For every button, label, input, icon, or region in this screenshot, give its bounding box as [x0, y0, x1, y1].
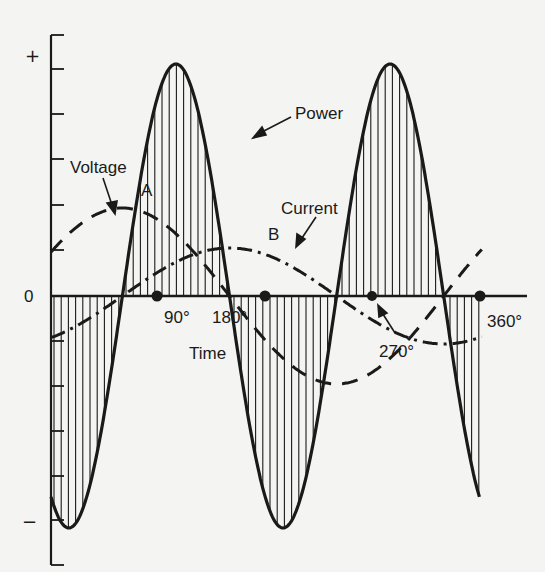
deg180-label: 180° [212, 308, 247, 327]
marker-90 [152, 291, 163, 302]
point-a-label: A [141, 181, 153, 200]
deg90-label: 90° [164, 308, 190, 327]
y-plus-label: + [25, 45, 40, 66]
power-label: Power [295, 104, 344, 123]
deg270-label: 270° [379, 342, 414, 361]
power-arrowhead [253, 127, 266, 138]
marker-270 [367, 291, 377, 301]
deg360-label: 360° [487, 312, 522, 331]
marker-360 [475, 291, 486, 302]
y-axis [51, 35, 64, 565]
y-minus-label: − [22, 511, 37, 532]
y-zero-label: 0 [24, 287, 33, 306]
y-axis-ticks [51, 35, 64, 565]
marker-180 [260, 291, 271, 302]
voltage-arrowhead [107, 201, 117, 214]
point-b-label: B [268, 225, 279, 244]
power-waveform-diagram: + 0 − Voltage A Power Current B 90° 180°… [0, 0, 545, 572]
deg270-arrowhead [378, 305, 387, 317]
time-label: Time [189, 344, 226, 363]
current-label: Current [281, 199, 338, 218]
voltage-label: Voltage [70, 158, 127, 177]
